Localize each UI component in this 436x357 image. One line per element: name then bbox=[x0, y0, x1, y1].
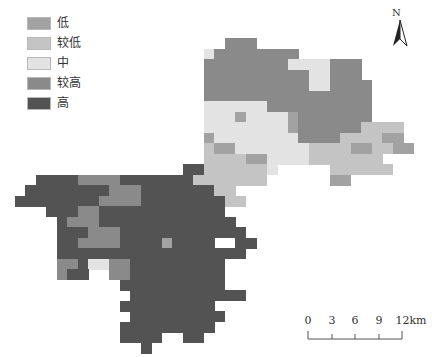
map-cell bbox=[120, 322, 131, 333]
map-cell bbox=[120, 196, 131, 207]
map-cell bbox=[330, 175, 341, 186]
map-cell bbox=[298, 59, 309, 70]
swatch-high bbox=[27, 97, 51, 110]
map-cell bbox=[57, 206, 68, 217]
map-cell bbox=[204, 322, 215, 333]
map-cell bbox=[183, 227, 194, 238]
map-cell bbox=[267, 91, 278, 102]
map-cell bbox=[151, 206, 162, 217]
map-cell bbox=[78, 259, 89, 270]
map-cell bbox=[162, 269, 173, 280]
map-cell bbox=[151, 185, 162, 196]
map-cell bbox=[109, 259, 120, 270]
map-cell bbox=[235, 122, 246, 133]
map-cell bbox=[246, 91, 257, 102]
map-cell bbox=[319, 154, 330, 165]
map-cell bbox=[214, 269, 225, 280]
map-cell bbox=[130, 206, 141, 217]
map-cell bbox=[204, 248, 215, 259]
map-cell bbox=[109, 217, 120, 228]
map-cell bbox=[67, 259, 78, 270]
map-cell bbox=[183, 280, 194, 291]
map-cell bbox=[225, 154, 236, 165]
map-cell bbox=[319, 122, 330, 133]
map-cell bbox=[288, 70, 299, 81]
map-cell bbox=[130, 175, 141, 186]
map-cell bbox=[46, 206, 57, 217]
map-cell bbox=[162, 196, 173, 207]
map-cell bbox=[330, 154, 341, 165]
map-cell bbox=[214, 154, 225, 165]
map-cell bbox=[225, 196, 236, 207]
map-cell bbox=[351, 59, 362, 70]
map-cell bbox=[99, 217, 110, 228]
swatch-lower bbox=[27, 37, 51, 50]
map-cell bbox=[277, 143, 288, 154]
map-cell bbox=[256, 80, 267, 91]
map-cell bbox=[372, 154, 383, 165]
map-cell bbox=[46, 196, 57, 207]
map-cell bbox=[130, 301, 141, 312]
map-cell bbox=[361, 133, 372, 144]
map-cell bbox=[141, 301, 152, 312]
map-cell bbox=[382, 133, 393, 144]
map-cell bbox=[78, 196, 89, 207]
map-cell bbox=[88, 248, 99, 259]
map-cell bbox=[78, 248, 89, 259]
legend-label: 较高 bbox=[57, 77, 81, 90]
map-cell bbox=[162, 206, 173, 217]
map-cell bbox=[78, 185, 89, 196]
map-cell bbox=[351, 122, 362, 133]
map-cell bbox=[382, 143, 393, 154]
map-cell bbox=[130, 290, 141, 301]
map-cell bbox=[319, 133, 330, 144]
map-cell bbox=[309, 143, 320, 154]
map-cell bbox=[351, 80, 362, 91]
map-cell bbox=[267, 164, 278, 175]
map-cell bbox=[235, 196, 246, 207]
map-cell bbox=[183, 290, 194, 301]
map-cell bbox=[330, 143, 341, 154]
map-cell bbox=[393, 143, 404, 154]
map-cell bbox=[162, 311, 173, 322]
map-cell bbox=[340, 101, 351, 112]
map-cell bbox=[151, 259, 162, 270]
map-cell bbox=[151, 332, 162, 343]
map-cell bbox=[277, 101, 288, 112]
map-cell bbox=[214, 185, 225, 196]
map-cell bbox=[256, 175, 267, 186]
map-cell bbox=[130, 238, 141, 249]
map-cell bbox=[340, 112, 351, 123]
map-cell bbox=[88, 227, 99, 238]
map-cell bbox=[36, 175, 47, 186]
map-cell bbox=[298, 143, 309, 154]
map-cell bbox=[319, 80, 330, 91]
map-cell bbox=[193, 164, 204, 175]
map-cell bbox=[57, 269, 68, 280]
map-cell bbox=[172, 259, 183, 270]
legend-item-high: 高 bbox=[27, 94, 81, 112]
map-cell bbox=[351, 133, 362, 144]
map-cell bbox=[340, 154, 351, 165]
map-cell bbox=[141, 227, 152, 238]
map-cell bbox=[256, 91, 267, 102]
map-cell bbox=[109, 175, 120, 186]
map-cell bbox=[235, 49, 246, 60]
map-cell bbox=[351, 101, 362, 112]
map-cell bbox=[225, 59, 236, 70]
map-cell bbox=[193, 301, 204, 312]
map-cell bbox=[267, 101, 278, 112]
map-cell bbox=[225, 122, 236, 133]
map-cell bbox=[235, 91, 246, 102]
map-cell bbox=[120, 248, 131, 259]
map-cell bbox=[130, 217, 141, 228]
map-cell bbox=[204, 227, 215, 238]
map-cell bbox=[183, 259, 194, 270]
map-cell bbox=[183, 206, 194, 217]
map-cell bbox=[235, 101, 246, 112]
map-cell bbox=[78, 175, 89, 186]
map-cell bbox=[151, 280, 162, 291]
map-cell bbox=[256, 101, 267, 112]
map-cell bbox=[172, 196, 183, 207]
map-cell bbox=[204, 91, 215, 102]
